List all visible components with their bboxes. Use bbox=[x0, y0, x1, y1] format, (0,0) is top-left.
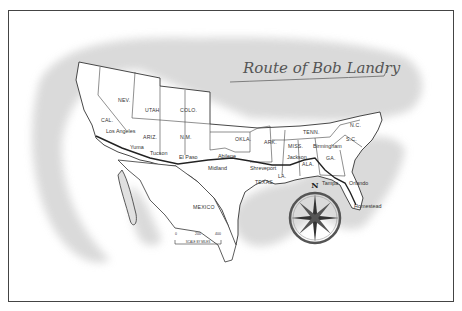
state-label-ariz: ARIZ. bbox=[143, 134, 157, 140]
city-label-orlando: Orlando bbox=[349, 180, 368, 186]
state-label-ark: ARK. bbox=[264, 139, 277, 145]
city-label-tampa: Tampa bbox=[322, 180, 338, 186]
state-label-colo: COLO. bbox=[180, 107, 197, 113]
state-label-nc: N.C. bbox=[350, 122, 361, 128]
scale-label: SCALE BY MILES bbox=[186, 240, 210, 244]
scale-tick-400: 400 bbox=[215, 232, 221, 236]
scale-tick-200: 200 bbox=[195, 232, 201, 236]
state-label-okla: OKLA. bbox=[235, 136, 251, 142]
map-title: Route of Bob Landry bbox=[242, 59, 401, 77]
city-label-birmingham: Birmingham bbox=[313, 143, 342, 149]
state-label-sc: S.C. bbox=[346, 136, 357, 142]
compass-north-label: N bbox=[311, 180, 318, 190]
route-map: Route of Bob Landry NEV. UTAH COLO. CAL.… bbox=[0, 0, 462, 311]
state-label-ga: GA. bbox=[326, 155, 336, 161]
state-label-utah: UTAH bbox=[145, 107, 160, 113]
city-label-jackson: Jackson bbox=[287, 154, 307, 160]
state-label-tenn: TENN. bbox=[303, 129, 320, 135]
city-label-el-paso: El Paso bbox=[179, 154, 198, 160]
state-label-cal: CAL. bbox=[101, 117, 113, 123]
country-label-mexico: MEXICO bbox=[193, 204, 215, 210]
state-label-nm: N.M. bbox=[180, 134, 192, 140]
state-label-ala: ALA. bbox=[302, 161, 314, 167]
city-label-shreveport: Shreveport bbox=[250, 165, 277, 171]
city-label-homestead: Homestead bbox=[354, 203, 382, 209]
city-label-tucson: Tucson bbox=[150, 150, 167, 156]
city-label-midland: Midland bbox=[208, 165, 227, 171]
state-label-miss: MISS. bbox=[288, 143, 303, 149]
state-label-la: LA. bbox=[278, 173, 286, 179]
city-label-yuma: Yuma bbox=[130, 144, 144, 150]
state-label-texas: TEXAS bbox=[255, 179, 273, 185]
state-label-nev: NEV. bbox=[118, 97, 130, 103]
scale-tick-0: 0 bbox=[175, 232, 177, 236]
city-label-abilene: Abilene bbox=[218, 153, 236, 159]
city-label-los-angeles: Los Angeles bbox=[106, 128, 136, 134]
